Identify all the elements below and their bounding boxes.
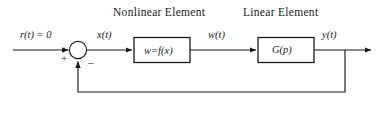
nonlinear-element-title: Nonlinear Element <box>113 7 205 19</box>
error-signal-label: x(t) <box>97 30 112 41</box>
linear-block-label: G(p) <box>272 45 292 56</box>
nonlinear-output-signal-label: w(t) <box>208 30 225 41</box>
linear-element-title: Linear Element <box>243 7 318 19</box>
summing-junction <box>69 41 86 58</box>
nonlinear-block-label: w=f(x) <box>144 46 173 57</box>
summing-junction-minus-sign: – <box>88 57 94 68</box>
input-signal-label: r(t) = 0 <box>20 30 52 41</box>
block-diagram-figure: Nonlinear Element Linear Element r(t) = … <box>0 0 384 120</box>
output-signal-label: y(t) <box>322 30 337 41</box>
summing-junction-plus-sign: + <box>61 53 67 64</box>
